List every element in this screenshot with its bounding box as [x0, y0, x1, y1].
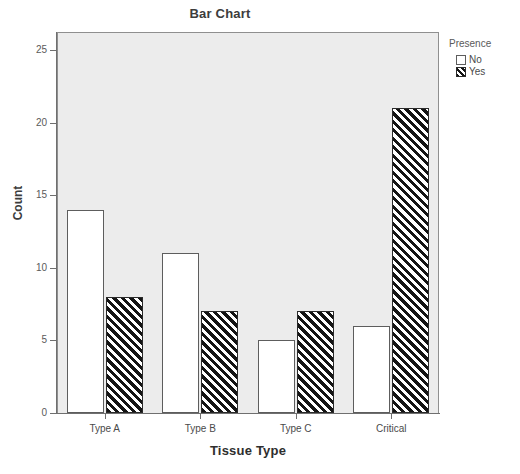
x-axis-tick-label: Type B: [152, 423, 248, 434]
legend-entry-yes[interactable]: Yes: [456, 66, 520, 77]
bar-no-critical: [353, 326, 390, 413]
legend-entry-label: Yes: [469, 66, 485, 77]
x-axis-tick-mark: [200, 414, 201, 419]
y-axis-tick-label: 5: [7, 334, 47, 345]
y-axis-tick-mark: [50, 413, 56, 414]
bar-no-type-a: [67, 210, 104, 413]
x-axis-tick-mark: [391, 414, 392, 419]
x-axis-tick-mark: [105, 414, 106, 419]
x-axis-tick-mark: [296, 414, 297, 419]
bar-yes-critical: [392, 108, 429, 413]
y-axis-tick-mark: [50, 123, 56, 124]
legend-title: Presence: [449, 38, 520, 49]
y-axis-tick-mark: [50, 340, 56, 341]
y-axis-tick-mark: [50, 195, 56, 196]
x-axis-line: [56, 413, 440, 414]
y-axis-tick-label: 10: [7, 262, 47, 273]
bar-no-type-c: [258, 340, 295, 413]
legend-entry-label: No: [469, 54, 482, 65]
y-axis-tick-mark: [50, 268, 56, 269]
y-axis-tick-label: 0: [7, 407, 47, 418]
y-axis-tick-label: 20: [7, 117, 47, 128]
bar-yes-type-a: [106, 297, 143, 413]
x-axis-title: Tissue Type: [57, 443, 439, 458]
page-title: Bar Chart: [0, 6, 440, 21]
x-axis-tick-label: Type A: [57, 423, 153, 434]
legend-entries: NoYes: [449, 54, 520, 77]
y-axis-tick-mark: [50, 50, 56, 51]
bottom-caption: [8, 466, 512, 474]
bar-yes-type-c: [297, 311, 334, 413]
y-axis-line: [56, 32, 57, 414]
x-axis-tick-label: Type C: [248, 423, 344, 434]
bar-yes-type-b: [201, 311, 238, 413]
bar-no-type-b: [162, 253, 199, 413]
y-axis-tick-label: 15: [7, 189, 47, 200]
x-axis-tick-label: Critical: [343, 423, 439, 434]
legend: Presence NoYes: [449, 38, 520, 78]
y-axis-title: Count: [11, 173, 25, 233]
legend-entry-no[interactable]: No: [456, 54, 520, 65]
y-axis-tick-label: 25: [7, 44, 47, 55]
white-square-swatch: [456, 55, 466, 65]
hatched-square-swatch: [456, 67, 466, 77]
